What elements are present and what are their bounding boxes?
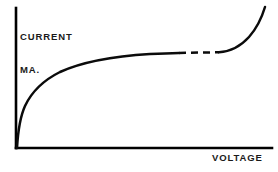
y-axis-label-line2: MA.: [20, 64, 73, 75]
y-axis-label: CURRENT MA.: [20, 9, 73, 97]
y-axis-label-line1: CURRENT: [20, 31, 73, 42]
characteristic-curve-figure: CURRENT MA. VOLTAGE: [0, 0, 278, 172]
curve-dashed-extrapolation: [179, 52, 219, 53]
x-axis-label: VOLTAGE: [212, 152, 263, 163]
curve-upturn-segment: [219, 7, 265, 52]
